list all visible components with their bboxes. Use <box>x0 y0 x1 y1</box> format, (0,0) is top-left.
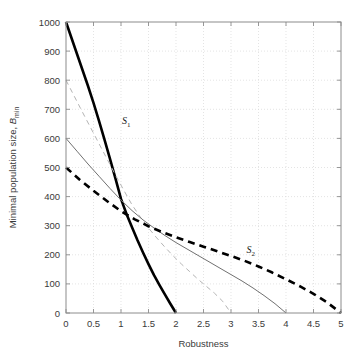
x-tick-label: 0.5 <box>87 318 100 329</box>
y-tick-label: 1000 <box>39 17 60 28</box>
y-tick-label: 800 <box>44 75 60 86</box>
plot-background <box>66 22 341 313</box>
y-tick-label: 0 <box>55 308 60 319</box>
y-tick-label: 500 <box>44 162 60 173</box>
x-tick-label: 2.5 <box>197 318 210 329</box>
y-tick-label: 300 <box>44 220 60 231</box>
x-tick-label: 2 <box>173 318 178 329</box>
svg-text:Minimal population size, Bmin: Minimal population size, Bmin <box>7 107 20 229</box>
x-tick-label: 4.5 <box>307 318 320 329</box>
y-axis-label-main: Minimal population size, <box>7 124 18 228</box>
x-tick-label: 3.5 <box>252 318 265 329</box>
y-axis-label: Minimal population size, Bmin <box>7 107 20 229</box>
x-tick-label: 4 <box>283 318 288 329</box>
y-tick-label: 700 <box>44 104 60 115</box>
x-tick-label: 3 <box>228 318 233 329</box>
x-tick-label: 5 <box>338 318 343 329</box>
x-axis-label: Robustness <box>178 338 228 349</box>
y-tick-label: 900 <box>44 46 60 57</box>
chart-canvas: 00.511.522.533.544.55 010020030040050060… <box>0 0 362 359</box>
y-tick-label: 400 <box>44 191 60 202</box>
chart-figure: 00.511.522.533.544.55 010020030040050060… <box>0 0 362 359</box>
y-tick-label: 200 <box>44 249 60 260</box>
y-tick-label: 600 <box>44 133 60 144</box>
x-tick-label: 1.5 <box>142 318 155 329</box>
x-tick-label: 0 <box>63 318 68 329</box>
y-tick-label: 100 <box>44 278 60 289</box>
y-axis-label-subscript: min <box>13 107 20 118</box>
x-tick-label: 1 <box>118 318 123 329</box>
y-tick-labels: 01002003004005006007008009001000 <box>39 17 60 319</box>
x-tick-labels: 00.511.522.533.544.55 <box>63 318 343 329</box>
